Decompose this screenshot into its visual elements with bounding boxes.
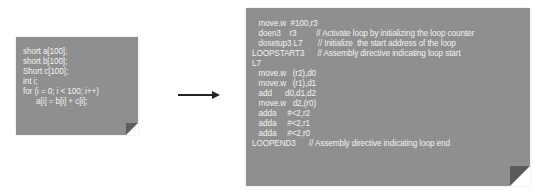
code-line: a[i] = b[i] + c[i]; (23, 97, 87, 107)
code-line: short a[100]; (23, 47, 67, 57)
asm-line: LOOPEND3 // Assembly directive indicatin… (252, 139, 450, 149)
asm-line: move.w d2,(r0) (252, 99, 316, 109)
asm-line: move.w (r2),d0 (252, 69, 316, 79)
code-line: for (i = 0; i < 100; i++) (23, 87, 99, 97)
asm-line: doen3 r3 // Activate loop by initializin… (252, 29, 474, 39)
assembly-code-note: move.w #100,r3 doen3 r3 // Activate loop… (246, 8, 530, 186)
asm-line: move.w (r1),d1 (252, 79, 316, 89)
source-code-note: short a[100]; short b[100]; Short c[100]… (16, 37, 138, 135)
code-line: Short c[100]; (23, 67, 68, 77)
page-curl-icon (510, 166, 530, 186)
arrow-head-icon (212, 91, 220, 99)
asm-line: adda #<2,r0 (252, 129, 310, 139)
asm-line: add d0,d1,d2 (252, 89, 316, 99)
code-line: int i; (23, 77, 37, 87)
asm-line: L7 (252, 59, 261, 69)
asm-line: move.w #100,r3 (252, 19, 318, 29)
asm-line: dosetup3 L7 // Initialize the start addr… (252, 39, 456, 49)
page-curl-icon (126, 123, 138, 135)
asm-line: adda #<2,r1 (252, 119, 310, 129)
asm-line: adda #<2,r2 (252, 109, 310, 119)
code-line: short b[100]; (23, 57, 67, 67)
asm-line: LOOPSTART3 // Assembly directive indicat… (252, 49, 461, 59)
